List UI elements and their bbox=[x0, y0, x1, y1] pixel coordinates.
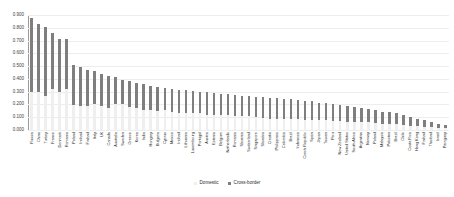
bar-segment-domestic bbox=[164, 110, 167, 130]
bar-column bbox=[210, 15, 217, 130]
x-axis-tick-label: Portugal bbox=[198, 132, 202, 146]
bar-column bbox=[288, 15, 295, 130]
bar-column bbox=[56, 15, 63, 130]
x-axis-tick-label: Israel bbox=[436, 132, 440, 141]
bar-segment-domestic bbox=[325, 120, 328, 130]
bar-stack bbox=[248, 15, 251, 130]
legend-item[interactable]: Cross-border bbox=[228, 181, 261, 186]
bar-stack bbox=[30, 15, 33, 130]
bar-segment-domestic bbox=[367, 122, 370, 130]
x-axis-tick-label: Sweden bbox=[121, 132, 125, 146]
x-axis-tick-label: Colombia bbox=[282, 132, 286, 148]
bar-segment-domestic bbox=[423, 127, 426, 130]
legend-item[interactable]: Domestic bbox=[194, 181, 219, 186]
bar-segment-cross-border bbox=[346, 106, 349, 121]
bar-column bbox=[435, 15, 442, 130]
x-axis-tick-label: Switzerland bbox=[247, 132, 251, 152]
x-axis-tick-label: Costa Rica bbox=[408, 132, 412, 151]
bar-segment-cross-border bbox=[332, 104, 335, 121]
bar-column bbox=[126, 15, 133, 130]
x-label-column: Slovakia bbox=[260, 132, 267, 180]
x-axis-tick-label: Bulgaria bbox=[156, 132, 160, 146]
bar-segment-cross-border bbox=[395, 113, 398, 124]
x-axis-tick-label: Slovakia bbox=[261, 132, 265, 146]
bar-segment-cross-border bbox=[416, 119, 419, 127]
bar-stack bbox=[65, 15, 68, 130]
x-label-column: Peru bbox=[330, 132, 337, 180]
bar-segment-domestic bbox=[437, 128, 440, 130]
bar-stack bbox=[409, 15, 412, 130]
bar-segment-cross-border bbox=[283, 99, 286, 119]
bar-column bbox=[42, 15, 49, 130]
bar-segment-cross-border bbox=[79, 67, 82, 105]
bar-stack bbox=[374, 15, 377, 130]
x-label-column: Malaysia bbox=[379, 132, 386, 180]
x-axis-tick-label: Czech Republic bbox=[303, 132, 307, 159]
x-label-column: India bbox=[140, 132, 147, 180]
bar-stack bbox=[339, 15, 342, 130]
bar-column bbox=[274, 15, 281, 130]
x-label-column: Norway bbox=[365, 132, 372, 180]
x-label-column: Netherlands bbox=[224, 132, 231, 180]
bar-column bbox=[154, 15, 161, 130]
bar-segment-domestic bbox=[395, 124, 398, 130]
bar-column bbox=[309, 15, 316, 130]
bar-stack bbox=[156, 15, 159, 130]
bar-column bbox=[91, 15, 98, 130]
x-label-column: Italy bbox=[91, 132, 98, 180]
bar-segment-cross-border bbox=[360, 108, 363, 122]
plot-area bbox=[28, 15, 449, 130]
bar-stack bbox=[185, 15, 188, 130]
bar-segment-domestic bbox=[360, 122, 363, 130]
bar-stack bbox=[423, 15, 426, 130]
bar-stack bbox=[332, 15, 335, 130]
bar-segment-cross-border bbox=[37, 24, 40, 92]
bar-segment-cross-border bbox=[402, 115, 405, 125]
bar-segment-domestic bbox=[192, 113, 195, 130]
bar-segment-domestic bbox=[234, 116, 237, 130]
x-label-column: Philippines bbox=[274, 132, 281, 180]
bar-stack bbox=[93, 15, 96, 130]
bar-stack bbox=[114, 15, 117, 130]
bar-column bbox=[253, 15, 260, 130]
bar-segment-domestic bbox=[206, 115, 209, 130]
bar-segment-domestic bbox=[79, 106, 82, 130]
x-axis-tick-label: Denmark bbox=[58, 132, 62, 148]
bar-segment-cross-border bbox=[339, 105, 342, 121]
x-axis-tick-label: Thailand bbox=[429, 132, 433, 147]
bar-column bbox=[203, 15, 210, 130]
bar-segment-cross-border bbox=[409, 117, 412, 126]
bar-stack bbox=[227, 15, 230, 130]
bar-stack bbox=[360, 15, 363, 130]
x-label-column: Romania bbox=[63, 132, 70, 180]
bar-stack bbox=[135, 15, 138, 130]
bar-segment-cross-border bbox=[185, 90, 188, 112]
bar-segment-cross-border bbox=[72, 65, 75, 105]
x-axis-tick-label: Cyprus bbox=[163, 132, 167, 144]
bar-segment-cross-border bbox=[100, 74, 103, 106]
bar-stack bbox=[381, 15, 384, 130]
bar-column bbox=[112, 15, 119, 130]
x-label-column: Estonia bbox=[210, 132, 217, 180]
bar-column bbox=[330, 15, 337, 130]
bar-segment-domestic bbox=[339, 121, 342, 130]
bar-segment-cross-border bbox=[107, 76, 110, 107]
bar-stack bbox=[311, 15, 314, 130]
x-label-column: Ireland bbox=[175, 132, 182, 180]
bar-column bbox=[323, 15, 330, 130]
x-axis-tick-label: Netherlands bbox=[226, 132, 230, 153]
x-label-column: Russia bbox=[28, 132, 35, 180]
x-axis-tick-label: Ireland bbox=[177, 132, 181, 144]
bar-stack bbox=[402, 15, 405, 130]
bar-segment-cross-border bbox=[276, 98, 279, 118]
bar-segment-domestic bbox=[283, 119, 286, 130]
bar-segment-domestic bbox=[248, 116, 251, 130]
x-axis-tick-label: Peru bbox=[331, 132, 335, 140]
x-label-column: Singapore bbox=[253, 132, 260, 180]
x-axis-tick-label: Paraguay bbox=[443, 132, 447, 148]
bar-stack bbox=[430, 15, 433, 130]
x-label-column: Poland bbox=[70, 132, 77, 180]
bar-segment-cross-border bbox=[65, 39, 68, 89]
bar-column bbox=[365, 15, 372, 130]
bar-segment-domestic bbox=[142, 110, 145, 130]
